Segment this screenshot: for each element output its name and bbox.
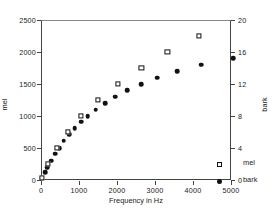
data-point-bark [43,170,48,175]
x-tick [193,181,194,185]
data-point-bark [94,107,99,112]
data-point-bark [62,139,67,144]
y-tick-label-right: 16 [238,48,246,57]
data-point-bark [175,69,180,74]
x-tick [117,181,118,185]
x-tick [79,181,80,185]
legend-marker-bark-icon [217,179,222,184]
legend-item-mel: mel [217,157,269,174]
data-point-bark [155,75,160,80]
y-tick-label-right: 0 [238,176,242,185]
y-tick-label-right: 20 [238,16,246,25]
data-point-bark [79,119,84,124]
y-tick-label-left: 1000 [19,112,36,121]
y-tick-right [231,52,235,53]
y-tick-left [37,20,41,21]
x-tick-label: 4000 [185,186,202,195]
y-tick-left [37,148,41,149]
y-tick-label-left: 0 [32,176,36,185]
legend-marker-mel-icon [217,162,222,167]
legend-label-mel: mel [243,158,255,167]
data-point-bark [139,82,144,87]
y-tick-label-right: 4 [238,144,242,153]
y-tick-label-left: 1500 [19,80,36,89]
x-axis-title: Frequency in Hz [109,196,163,205]
y-tick-label-left: 2500 [19,16,36,25]
legend-label-bark: bark [243,175,257,184]
data-point-bark [231,56,236,61]
x-tick [231,181,232,185]
y-tick-left [37,84,41,85]
data-point-bark [125,88,130,93]
data-point-mel [95,97,100,102]
y-tick-right [231,148,235,149]
data-point-mel [45,161,50,166]
y-tick-right [231,84,235,85]
y-tick-label-left: 2000 [19,48,36,57]
data-point-bark [113,95,118,100]
y-axis-right-title: bark [260,97,269,111]
data-point-mel [165,49,170,54]
y-tick-right [231,20,235,21]
y-tick-label-left: 500 [23,144,36,153]
data-point-mel [65,129,70,134]
y-tick-label-right: 8 [238,112,242,121]
data-point-mel [54,145,59,150]
x-tick-label: 2000 [109,186,126,195]
data-point-bark [72,126,77,131]
x-tick [41,181,42,185]
data-point-mel [78,113,83,118]
y-tick-left [37,116,41,117]
plot-area: mel bark [41,20,231,180]
x-tick-label: 1000 [71,186,88,195]
x-tick-label: 5000 [223,186,240,195]
y-tick-label-right: 12 [238,80,246,89]
data-point-bark [103,101,108,106]
data-point-bark [53,151,58,156]
y-axis-left-title: mel [0,99,9,111]
data-point-mel [116,81,121,86]
data-point-mel [196,33,201,38]
y-tick-right [231,116,235,117]
data-point-bark [86,114,91,119]
x-tick [155,181,156,185]
data-point-bark [199,63,204,68]
chart-figure: mel bark mel bark Frequency in Hz 050010… [0,0,275,209]
y-tick-left [37,52,41,53]
x-tick-label: 0 [39,186,43,195]
data-point-mel [139,65,144,70]
x-tick-label: 3000 [147,186,164,195]
